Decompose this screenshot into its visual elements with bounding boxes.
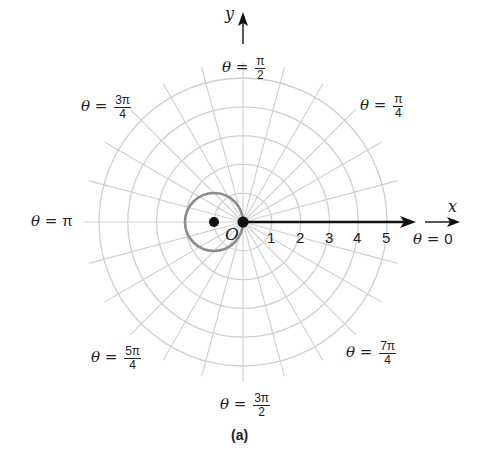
pole-point bbox=[238, 217, 249, 228]
spoke bbox=[243, 222, 323, 361]
origin-label: O bbox=[225, 224, 239, 244]
spoke bbox=[130, 109, 243, 222]
spoke bbox=[104, 142, 243, 222]
figure-caption: (a) bbox=[231, 427, 248, 443]
ring-tick-2: 2 bbox=[296, 229, 304, 246]
angle-label-pi: θ = π bbox=[31, 213, 73, 229]
spoke bbox=[243, 142, 382, 222]
spoke bbox=[243, 222, 284, 377]
polar-figure: y x O 1 2 3 4 5 θ = 0 θ = π4 θ = π2 θ = … bbox=[0, 0, 484, 470]
spoke bbox=[202, 222, 243, 377]
spoke bbox=[163, 83, 243, 222]
spoke bbox=[104, 222, 243, 302]
angle-label-7pi-over-4: θ = 7π4 bbox=[346, 340, 396, 366]
angle-label-3pi-over-2: θ = 3π2 bbox=[220, 392, 270, 418]
ring-tick-5: 5 bbox=[382, 229, 390, 246]
y-axis-label: y bbox=[225, 4, 234, 23]
spoke bbox=[243, 109, 356, 222]
spoke bbox=[202, 68, 243, 223]
angle-label-pi-over-2: θ = π2 bbox=[222, 55, 265, 81]
spoke bbox=[243, 68, 284, 223]
spoke bbox=[89, 181, 244, 222]
x-axis-label: x bbox=[448, 197, 457, 216]
ring-tick-1: 1 bbox=[267, 229, 275, 246]
circle-center-point bbox=[209, 217, 219, 227]
ring-tick-4: 4 bbox=[353, 229, 361, 246]
spoke bbox=[89, 222, 244, 263]
angle-label-3pi-over-4: θ = 3π4 bbox=[81, 94, 131, 120]
angle-label-5pi-over-4: θ = 5π4 bbox=[91, 345, 141, 371]
angle-label-0: θ = 0 bbox=[413, 231, 452, 247]
ring-tick-3: 3 bbox=[325, 229, 333, 246]
spoke bbox=[243, 181, 398, 222]
spoke bbox=[243, 83, 323, 222]
angle-label-pi-over-4: θ = π4 bbox=[360, 93, 403, 119]
